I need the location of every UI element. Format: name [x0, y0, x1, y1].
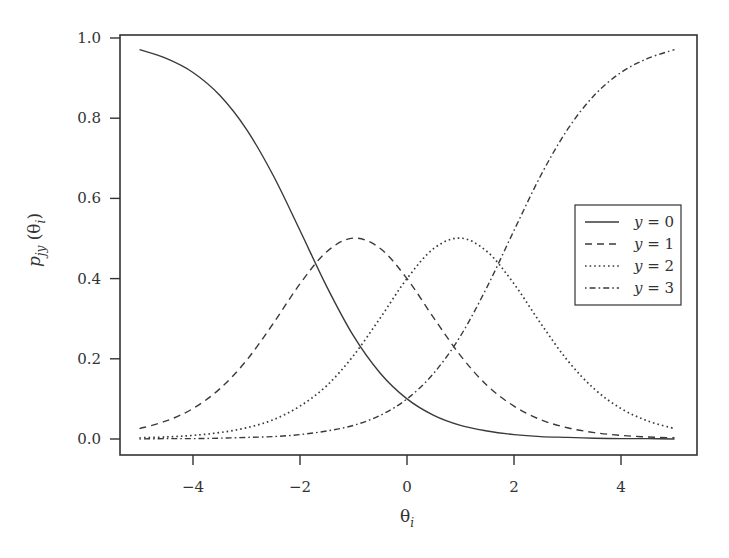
y-tick-label: 0.0 [77, 430, 101, 448]
y-tick-label: 0.6 [77, 189, 101, 207]
svg-text:y = 2: y = 2 [633, 257, 674, 275]
y-axis: 0.00.20.40.60.81.0 [77, 29, 120, 448]
y-tick-label: 0.2 [77, 350, 101, 368]
chart-svg: −4−2024 0.00.20.40.60.81.0 θi pjy (θi) y… [0, 0, 729, 558]
svg-text:y = 0: y = 0 [633, 213, 674, 231]
x-tick-label: 0 [402, 478, 412, 496]
x-tick-label: 2 [509, 478, 519, 496]
x-tick-label: −2 [289, 478, 311, 496]
y-tick-label: 0.8 [77, 109, 101, 127]
y-axis-label: pjy (θi) [24, 213, 48, 267]
x-tick-label: 4 [616, 478, 626, 496]
y-tick-label: 0.4 [77, 270, 101, 288]
legend: y = 0 y = 1 y = 2 y = 3 [575, 205, 681, 305]
legend-label: = 1 [642, 235, 674, 253]
svg-text:y = 3: y = 3 [633, 279, 674, 297]
svg-text:y = 1: y = 1 [633, 235, 674, 253]
legend-label: = 3 [642, 279, 674, 297]
x-tick-label: −4 [182, 478, 204, 496]
x-axis-label: θi [400, 506, 414, 530]
legend-label: = 0 [642, 213, 674, 231]
legend-label: = 2 [642, 257, 674, 275]
x-axis: −4−2024 [182, 455, 626, 496]
y-tick-label: 1.0 [77, 29, 101, 47]
